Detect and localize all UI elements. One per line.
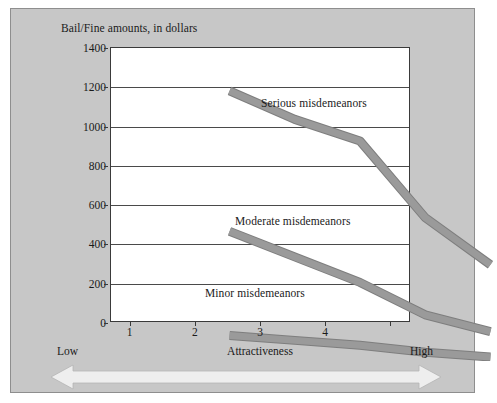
y-tick-mark — [104, 87, 108, 88]
x-tick-label: 2 — [180, 326, 210, 338]
plot-area — [110, 47, 410, 322]
x-tick-label: 3 — [245, 326, 275, 338]
y-tick-mark — [104, 323, 108, 324]
x-tick-label: 1 — [115, 326, 145, 338]
low-label: Low — [57, 345, 78, 357]
y-tick-label: 800 — [60, 160, 106, 172]
series-label-minor: Minor misdemeanors — [205, 287, 305, 299]
figure-panel: Bail/Fine amounts, in dollars 0200400600… — [10, 8, 475, 393]
y-axis-tick-labels: 0200400600800100012001400 — [54, 47, 106, 322]
y-tick-label: 600 — [60, 199, 106, 211]
y-tick-label: 400 — [60, 238, 106, 250]
series-line — [230, 231, 491, 331]
y-tick-label: 200 — [60, 278, 106, 290]
y-tick-label: 1400 — [60, 42, 106, 54]
y-tick-label: 1200 — [60, 81, 106, 93]
x-tick-label: 4 — [310, 326, 340, 338]
x-axis-tick-labels: 1234 — [110, 326, 410, 342]
y-tick-mark — [104, 166, 108, 167]
y-axis-title: Bail/Fine amounts, in dollars — [61, 22, 197, 34]
low-high-double-arrow-icon — [51, 364, 441, 390]
y-tick-mark — [104, 48, 108, 49]
series-line — [230, 91, 491, 265]
x-tick-mark — [390, 322, 391, 326]
series-label-moderate: Moderate misdemeanors — [235, 215, 350, 227]
y-tick-mark — [104, 284, 108, 285]
y-tick-mark — [104, 127, 108, 128]
y-tick-label: 1000 — [60, 121, 106, 133]
x-axis-title: Attractiveness — [110, 345, 410, 357]
y-tick-mark — [104, 205, 108, 206]
y-tick-label: 0 — [60, 317, 106, 329]
high-label: High — [410, 345, 433, 357]
series-label-serious: Serious misdemeanors — [261, 97, 367, 109]
y-tick-mark — [104, 244, 108, 245]
